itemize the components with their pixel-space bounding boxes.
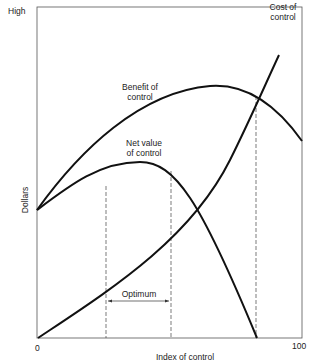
net-value-label: Net value of control — [114, 138, 174, 158]
net-value-curve — [37, 162, 257, 338]
chart-canvas — [0, 0, 312, 363]
benefit-label-line2: control — [112, 92, 168, 102]
x-tick-hundred: 100 — [292, 341, 306, 351]
arrow-left-icon — [108, 299, 112, 302]
cost-label: Cost of control — [258, 2, 308, 22]
x-axis-label: Index of control — [130, 352, 240, 362]
cost-label-line2: control — [258, 12, 308, 22]
benefit-label-line1: Benefit of — [112, 82, 168, 92]
optimum-label: Optimum — [112, 289, 166, 299]
y-axis-label: Dollars — [20, 185, 30, 215]
net-value-label-line1: Net value — [114, 138, 174, 148]
y-tick-high: High — [8, 6, 25, 16]
x-tick-zero: 0 — [35, 343, 40, 353]
cost-label-line1: Cost of — [258, 2, 308, 12]
arrow-right-icon — [165, 299, 169, 302]
benefit-label: Benefit of control — [112, 82, 168, 102]
net-value-label-line2: of control — [114, 148, 174, 158]
